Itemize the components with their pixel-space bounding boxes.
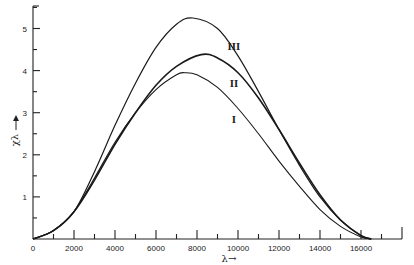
- curve-label-ii: II: [230, 79, 238, 89]
- x-axis-label: λ→: [222, 253, 237, 264]
- labels: IIIIII: [228, 42, 241, 126]
- y-tick-label: 4: [23, 67, 28, 76]
- x-tick-label: 16000: [350, 244, 373, 253]
- x-tick-label: 0: [31, 244, 36, 253]
- axes: 0200040006000800010000120001400016000123…: [9, 6, 402, 264]
- x-tick-label: 14000: [309, 244, 332, 253]
- x-tick-label: 8000: [188, 244, 206, 253]
- y-tick-label: 1: [23, 193, 28, 202]
- x-tick-label: 10000: [227, 244, 250, 253]
- x-tick-label: 4000: [106, 244, 124, 253]
- y-axis-label: χλ: [9, 115, 20, 146]
- x-tick-label: 6000: [147, 244, 165, 253]
- spectral-curves-chart: 0200040006000800010000120001400016000123…: [0, 0, 414, 265]
- y-tick-label: 2: [23, 151, 28, 160]
- curves: [33, 18, 371, 239]
- curve-iii: [33, 18, 371, 239]
- svg-text:λ→: λ→: [222, 253, 237, 264]
- y-tick-label: 3: [23, 109, 28, 118]
- x-tick-label: 2000: [65, 244, 83, 253]
- y-tick-label: 5: [23, 25, 28, 34]
- curve-i: [33, 73, 371, 239]
- curve-label-iii: III: [228, 42, 241, 52]
- x-tick-label: 12000: [268, 244, 291, 253]
- svg-text:χλ: χλ: [9, 133, 20, 146]
- curve-label-i: I: [232, 115, 236, 125]
- curve-ii: [33, 54, 371, 239]
